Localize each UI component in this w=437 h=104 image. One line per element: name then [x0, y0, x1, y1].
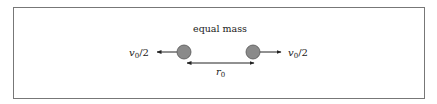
title-label: equal mass [193, 23, 247, 34]
separation-label: r0 [216, 66, 225, 79]
right-mass [246, 45, 260, 59]
left-mass [177, 45, 191, 59]
left-velocity-label: v0/2 [129, 47, 149, 60]
right-velocity-label: v0/2 [288, 47, 308, 60]
diagram-canvas: equal mass v0/2 v0/2 r0 [0, 0, 437, 104]
diagram-frame [14, 8, 425, 99]
